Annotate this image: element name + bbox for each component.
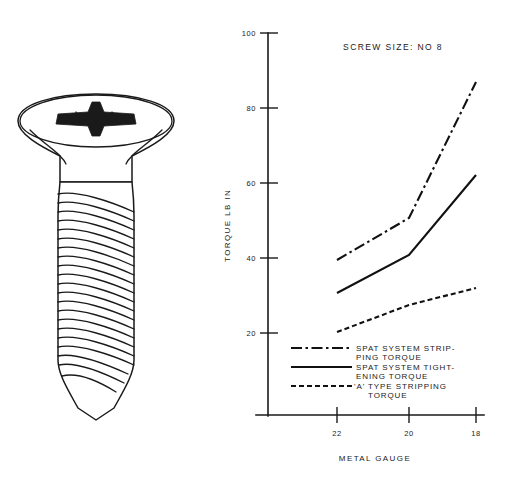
torque-chart: 100 80 60 40 20 TORQUE LB IN 22 20 18 ME…: [215, 0, 514, 477]
series-line-a-type-stripping: [337, 288, 476, 332]
chart-title: SCREW SIZE: NO 8: [343, 42, 443, 52]
legend-item-spat-tightening: SPAT SYSTEM TIGHT- ENING TORQUE: [291, 363, 455, 381]
series-line-spat-tightening: [337, 175, 476, 293]
x-tick-label-22: 22: [332, 429, 342, 438]
chart-svg: 100 80 60 40 20 TORQUE LB IN 22 20 18 ME…: [215, 0, 514, 477]
legend-label-a-type-line2: TORQUE: [368, 391, 407, 400]
figure-root: 100 80 60 40 20 TORQUE LB IN 22 20 18 ME…: [0, 0, 514, 477]
x-tick-label-18: 18: [471, 429, 481, 438]
legend-label-spat-tightening-line2: ENING TORQUE: [356, 372, 428, 381]
legend-item-a-type-stripping: 'A' TYPE STRIPPING TORQUE: [291, 382, 447, 400]
chart-legend: SPAT SYSTEM STRIP- PING TORQUE SPAT SYST…: [291, 344, 455, 400]
legend-label-spat-tightening-line1: SPAT SYSTEM TIGHT-: [356, 363, 455, 372]
y-tick-marks: [260, 33, 278, 333]
y-axis-title: TORQUE LB IN: [223, 189, 232, 262]
legend-item-spat-stripping: SPAT SYSTEM STRIP- PING TORQUE: [291, 344, 455, 362]
x-axis-title: METAL GAUGE: [339, 454, 411, 463]
legend-label-spat-stripping-line2: PING TORQUE: [356, 353, 422, 362]
screw-drawing: [0, 90, 215, 420]
y-tick-label-40: 40: [246, 254, 256, 263]
x-tick-label-20: 20: [404, 429, 414, 438]
legend-label-spat-stripping-line1: SPAT SYSTEM STRIP-: [356, 344, 455, 353]
series-line-spat-stripping: [337, 82, 476, 260]
screw-illustration: [0, 90, 215, 420]
screw-shank-thread: [58, 182, 134, 420]
legend-label-a-type-line1: 'A' TYPE STRIPPING: [354, 382, 447, 391]
y-tick-label-60: 60: [246, 179, 256, 188]
y-tick-label-100: 100: [242, 29, 256, 38]
y-tick-label-80: 80: [246, 104, 256, 113]
y-tick-label-20: 20: [246, 329, 256, 338]
